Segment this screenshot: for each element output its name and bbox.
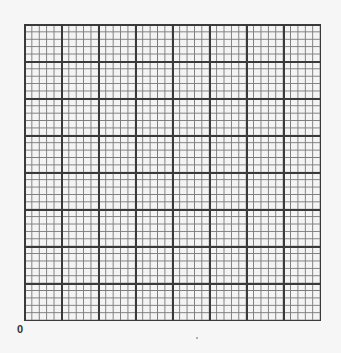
graph-paper-grid xyxy=(24,24,321,321)
origin-label: 0 xyxy=(17,323,23,335)
stray-dot xyxy=(196,337,198,339)
